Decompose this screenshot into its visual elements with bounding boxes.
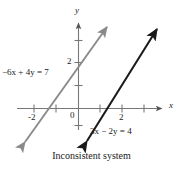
graph-figure: y x -2 2 2 0 −6x + 4y = 7 3x − 2y = 4 In… — [0, 0, 183, 169]
equation-label-gray: −6x + 4y = 7 — [2, 68, 49, 77]
x-axis — [17, 105, 162, 113]
origin-label: 0 — [70, 111, 75, 120]
equation-label-black: 3x − 2y = 4 — [90, 127, 132, 136]
y-axis — [75, 23, 83, 130]
x-axis-label: x — [169, 101, 173, 110]
x-tick-label-2: 2 — [119, 113, 124, 122]
y-axis-label: y — [75, 6, 79, 15]
figure-caption: Inconsistent system — [0, 150, 183, 161]
line-gray-minus6x-plus-4y-equals-7 — [25, 27, 107, 142]
y-tick-label-2: 2 — [67, 57, 72, 66]
coordinate-plane — [0, 0, 183, 169]
x-tick-label-minus2: -2 — [28, 113, 36, 122]
line-black-3x-minus-2y-equals-4 — [87, 29, 157, 141]
